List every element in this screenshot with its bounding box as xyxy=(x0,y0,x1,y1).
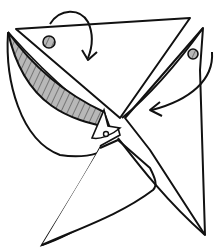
center-dot xyxy=(104,132,109,137)
top-left-dot xyxy=(43,36,55,48)
right-dot xyxy=(188,49,198,59)
diagram-canvas xyxy=(0,0,221,251)
bottom-white-flap xyxy=(42,140,156,245)
origami-diagram xyxy=(0,0,221,251)
